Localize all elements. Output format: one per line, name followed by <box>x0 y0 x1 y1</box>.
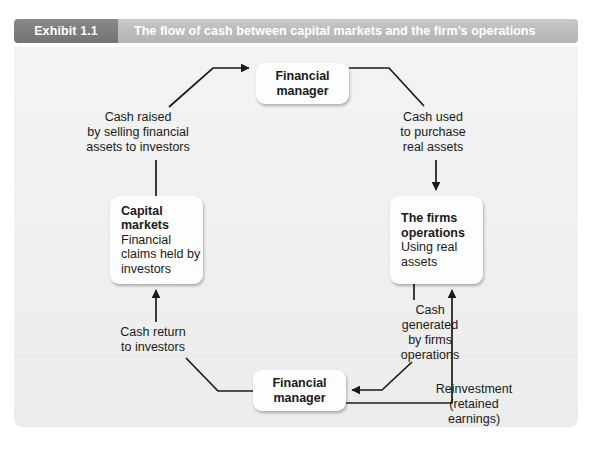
exhibit-figure: Exhibit 1.1 The flow of cash between cap… <box>0 0 600 451</box>
node-title: Financial manager <box>256 69 349 98</box>
label-cash-return: Cash return to investors <box>92 325 214 355</box>
node-firms-operations: The firms operations Using real assets <box>390 196 483 284</box>
exhibit-header-bar: Exhibit 1.1 The flow of cash between cap… <box>14 19 578 43</box>
node-subtitle: Using real assets <box>401 240 483 269</box>
exhibit-title: The flow of cash between capital markets… <box>134 19 536 43</box>
node-capital-markets: Capital markets Financial claims held by… <box>110 196 203 284</box>
exhibit-number-badge: Exhibit 1.1 <box>14 19 118 43</box>
node-financial-manager-top: Financial manager <box>256 63 349 104</box>
node-title: The firms operations <box>401 211 483 240</box>
label-cash-used: Cash used to purchase real assets <box>378 110 488 155</box>
node-title: Financial manager <box>253 376 346 405</box>
node-financial-manager-bottom: Financial manager <box>253 370 346 411</box>
node-title: Capital markets <box>121 204 203 233</box>
node-subtitle: Financial claims held by investors <box>121 233 203 277</box>
label-cash-raised: Cash raised by selling financial assets … <box>62 110 214 155</box>
label-reinvestment: Reinvestment (retained earnings) <box>420 382 528 427</box>
label-cash-generated: Cash generated by firms operations <box>388 303 472 363</box>
exhibit-number-label: Exhibit 1.1 <box>34 24 98 38</box>
